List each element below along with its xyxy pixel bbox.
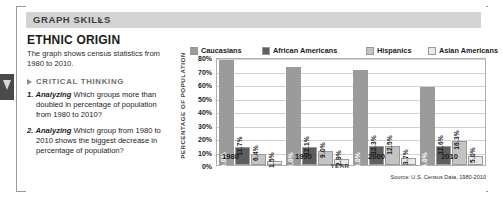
chart-legend: CaucasiansAfrican AmericansHispanicsAsia…: [190, 46, 486, 55]
question-verb: Analyzing: [35, 90, 71, 99]
y-axis-tick-label: 80%: [198, 55, 212, 62]
section-description: The graph shows census statistics from 1…: [27, 49, 162, 69]
question-number: 2.: [27, 126, 33, 135]
plot-outer: 80%70%60%50%40%30%20%10%0% 76.0%11.7%6.4…: [190, 58, 486, 166]
question-item: 2. Analyzing Which group from 1980 to 20…: [27, 126, 162, 157]
x-axis-tick-label: 2010: [422, 152, 478, 161]
bar[interactable]: 71.0%: [286, 67, 301, 165]
bracket-mask-top: [26, 3, 486, 11]
x-axis-tick-label: 1990: [276, 152, 332, 161]
bar-group: 71.0%12.1%9.0%2.9%: [286, 59, 349, 165]
legend-label: Hispanics: [377, 46, 411, 55]
critical-thinking-heading: CRITICAL THINKING: [27, 77, 162, 86]
bar[interactable]: 76.0%: [219, 60, 234, 165]
bar-value-label: 16.3%: [453, 130, 460, 150]
y-axis-tick-label: 70%: [198, 68, 212, 75]
legend-item: African Americans: [262, 46, 366, 55]
x-axis-title: YEAR: [194, 162, 486, 169]
bar-group: 76.0%11.7%6.4%1.5%: [219, 59, 282, 165]
legend-item: Hispanics: [366, 46, 428, 55]
y-axis-tick-label: 40%: [198, 109, 212, 116]
legend-item: Asian Americans: [428, 46, 486, 55]
question-verb: Analyzing: [35, 126, 71, 135]
bar[interactable]: 69.0%: [353, 70, 368, 165]
legend-swatch-icon: [262, 47, 270, 55]
question-number: 1.: [27, 90, 33, 99]
bar-group: 56.0%12.6%16.3%5.0%: [420, 59, 483, 165]
chart-source: Source: U.S. Census Data, 1980-2010: [391, 174, 486, 180]
y-axis-ticks: 80%70%60%50%40%30%20%10%0%: [190, 58, 214, 166]
bar-chart: CaucasiansAfrican AmericansHispanicsAsia…: [168, 42, 486, 190]
section-title: ETHNIC ORIGIN: [27, 33, 162, 47]
y-axis-title: PERCENTAGE OF POPULATION: [179, 48, 186, 164]
y-axis-tick-label: 30%: [198, 122, 212, 129]
critical-thinking-label: CRITICAL THINKING: [36, 77, 124, 86]
bar-groups: 76.0%11.7%6.4%1.5%71.0%12.1%9.0%2.9%69.0…: [217, 59, 485, 165]
triangle-right-icon: [27, 79, 32, 85]
plot-area: 76.0%11.7%6.4%1.5%71.0%12.1%9.0%2.9%69.0…: [216, 58, 486, 166]
legend-label: Asian Americans: [439, 46, 498, 55]
legend-label: African Americans: [273, 46, 337, 55]
x-axis-tick-label: 1980: [203, 152, 259, 161]
left-text-column: ETHNIC ORIGIN The graph shows census sta…: [27, 33, 162, 161]
bar-group: 69.0%12.3%12.5%3.7%: [353, 59, 416, 165]
page-edge-tab: [0, 74, 14, 100]
chevron-right-icon: ›: [99, 14, 102, 25]
y-axis-tick-label: 50%: [198, 95, 212, 102]
question-item: 1. Analyzing Which groups more than doub…: [27, 90, 162, 121]
legend-swatch-icon: [190, 47, 198, 55]
x-axis-ticks: 1980199020002010: [194, 152, 486, 161]
y-axis-tick-label: 60%: [198, 82, 212, 89]
legend-swatch-icon: [366, 47, 374, 55]
x-axis-tick-label: 2000: [349, 152, 405, 161]
legend-swatch-icon: [428, 47, 436, 55]
graph-skills-page: GRAPH SKILLS › ETHNIC ORIGIN The graph s…: [0, 0, 503, 204]
chevron-down-icon: [3, 80, 11, 90]
y-axis-tick-label: 20%: [198, 136, 212, 143]
